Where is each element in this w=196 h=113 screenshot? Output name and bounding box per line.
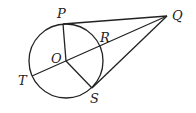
segment-qs [92, 16, 167, 88]
label-p: P [56, 6, 66, 21]
segment-op [63, 24, 66, 61]
segment-os [66, 61, 92, 88]
label-o: O [51, 51, 62, 66]
label-s: S [90, 91, 99, 106]
label-q: Q [172, 8, 183, 23]
geometry-diagram: P Q R O T S [0, 0, 196, 113]
label-r: R [99, 30, 110, 45]
label-t: T [18, 73, 28, 88]
segment-qt [32, 16, 167, 76]
